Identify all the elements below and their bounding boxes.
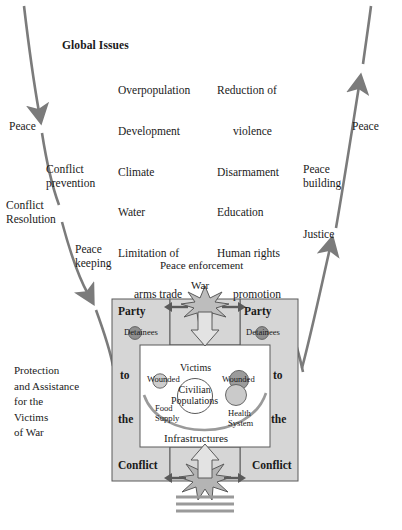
issue-item: Reduction of: [217, 84, 281, 98]
global-issues-heading: Global Issues: [62, 39, 129, 53]
cycle-arrow-left-upper: [24, 6, 39, 112]
global-issues-column-right: Reduction of violence Disarmament Educat…: [217, 57, 281, 328]
issue-item: violence: [217, 125, 281, 139]
party-label-left: Party: [118, 305, 145, 319]
issue-item: Education: [217, 206, 281, 220]
cycle-arrow-right-top: [363, 6, 371, 64]
cycle-label-peace-right: Peace: [352, 120, 379, 134]
global-issues-column-left: Overpopulation Development Climate Water…: [118, 57, 190, 328]
cycle-label-peace-enforcement: Peace enforcement: [160, 259, 243, 272]
detainees-label-left: Detainees: [124, 327, 158, 337]
detainees-label-right: Detainees: [246, 327, 280, 337]
war-label: War: [191, 279, 209, 292]
protection-caption: Protection and Assistance for the Victim…: [14, 363, 79, 441]
party-label-right: Party: [244, 305, 271, 319]
the-label-right: the: [271, 413, 286, 427]
cycle-label-conflict-resolution: Conflict Resolution: [6, 199, 56, 226]
health-circle-right: [226, 385, 247, 406]
wounded-label-left: Wounded: [147, 374, 180, 384]
cycle-label-peace-left: Peace: [9, 120, 36, 134]
to-label-right: to: [273, 369, 283, 383]
the-label-left: the: [118, 413, 133, 427]
to-label-left: to: [120, 369, 130, 383]
issue-item: Climate: [118, 166, 190, 180]
cycle-label-peace-building: Peace building: [303, 163, 341, 190]
cycle-label-justice: Justice: [303, 228, 334, 242]
issue-item: promotion: [217, 288, 281, 302]
victims-label: Victims: [180, 362, 211, 374]
conflict-label-right: Conflict: [252, 459, 292, 473]
cycle-arrow-right-mid: [302, 248, 330, 368]
issue-item: Development: [118, 125, 190, 139]
cycle-label-conflict-prevention: Conflict prevention: [46, 163, 95, 190]
infrastructures-label: Infrastructures: [164, 432, 228, 445]
diagram-canvas: Global Issues Overpopulation Development…: [0, 0, 402, 530]
cycle-label-peace-keeping: Peace keeping: [75, 243, 111, 270]
issue-item: Disarmament: [217, 166, 281, 180]
issue-item: Overpopulation: [118, 84, 190, 98]
issue-item: arms trade: [118, 288, 190, 302]
issue-item: Water: [118, 206, 190, 220]
wounded-label-right: Wounded: [222, 374, 255, 384]
food-supply-label: Food Supply: [155, 404, 179, 423]
conflict-label-left: Conflict: [118, 459, 158, 473]
cycle-arrow-right-upper: [336, 86, 359, 228]
cycle-arrow-left-bottom: [96, 310, 113, 366]
health-system-label: Health System: [228, 409, 253, 428]
